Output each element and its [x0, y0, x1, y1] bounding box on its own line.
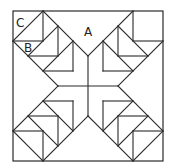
bottom-right-arm-triangles [103, 101, 163, 161]
label-a: A [84, 25, 93, 39]
label-b: B [24, 41, 32, 55]
bottom-left-arm-triangles [13, 101, 73, 161]
top-right-arm-triangles [103, 11, 163, 71]
label-c: C [16, 16, 24, 30]
center-diamond-cross [58, 56, 118, 116]
quilt-block-diagram: C B A [0, 0, 181, 168]
